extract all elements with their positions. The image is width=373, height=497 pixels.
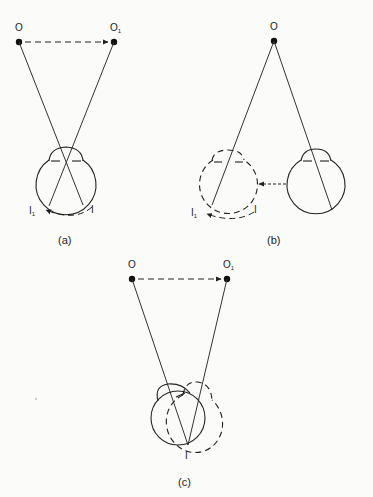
ray-o1-to-i bbox=[188, 279, 227, 445]
image-move-arrow bbox=[207, 212, 254, 219]
eye-icon bbox=[36, 147, 96, 215]
eye-icon bbox=[287, 149, 345, 214]
moved-object-label-o1: O1 bbox=[223, 259, 235, 271]
object-label-o: O bbox=[15, 22, 23, 33]
ray-to-original-eye bbox=[274, 41, 332, 210]
caption-c: (c) bbox=[178, 476, 191, 488]
moved-eye-icon bbox=[200, 150, 258, 214]
caption-b: (b) bbox=[267, 234, 280, 246]
image-label-i: I bbox=[91, 204, 94, 215]
panel-b: O I1 I (b) bbox=[191, 21, 345, 246]
image-label-i: I bbox=[185, 450, 188, 461]
panel-a: O O1 I1 I (a) bbox=[15, 22, 122, 246]
ray-o-to-i bbox=[132, 279, 188, 445]
stray-mark bbox=[35, 398, 37, 400]
ray-o1-to-i1 bbox=[49, 42, 114, 206]
object-label-o: O bbox=[270, 21, 278, 32]
eye-movement-diagram: O O1 I1 I (a) O bbox=[0, 0, 373, 497]
moved-image-label-i1: I1 bbox=[29, 205, 36, 217]
image-label-i: I bbox=[254, 204, 257, 215]
ray-o-to-i bbox=[19, 42, 83, 205]
panel-c: O O1 I (c) bbox=[128, 259, 235, 488]
object-label-o: O bbox=[128, 259, 136, 270]
moved-image-label-i1: I1 bbox=[191, 207, 198, 219]
caption-a: (a) bbox=[58, 234, 71, 246]
ray-to-moved-eye bbox=[212, 41, 274, 205]
moved-object-label-o1: O1 bbox=[110, 22, 122, 34]
